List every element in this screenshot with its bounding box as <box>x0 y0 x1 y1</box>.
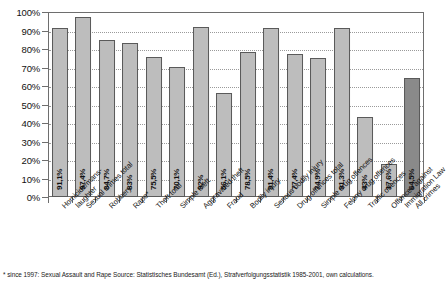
bar-slot: 75,5% <box>142 12 166 197</box>
y-tick-label: 10% <box>22 173 40 184</box>
bar-slot: 64,5% <box>401 12 425 197</box>
bar-slot: 92% <box>189 12 213 197</box>
bar-value-label: 91,1% <box>55 169 64 190</box>
x-axis-labels: Homicide/mans-laughterSexual crimes tota… <box>48 204 430 266</box>
bar-slot: 77,4% <box>283 12 307 197</box>
y-axis: 100%90%80%70%60%50%40%30%20%10%0% <box>0 12 48 197</box>
y-tick-label: 20% <box>22 155 40 166</box>
y-tick-label: 50% <box>22 99 40 110</box>
bar-slot: 70,1% <box>166 12 190 197</box>
bar-slot: 91,1% <box>48 12 72 197</box>
y-tick-label: 0% <box>27 192 40 203</box>
bar-value-label: 75,5% <box>149 169 158 190</box>
bar-slot: 97,4% <box>72 12 96 197</box>
y-tick-label: 80% <box>22 44 40 55</box>
y-tick-label: 100% <box>17 7 41 18</box>
y-tick-label: 40% <box>22 118 40 129</box>
footnote: * since 1997: Sexual Assault and Rape So… <box>3 271 427 278</box>
bar[interactable]: 70,1% <box>169 67 185 197</box>
y-tick-label: 60% <box>22 81 40 92</box>
bar[interactable]: 75,5% <box>146 57 162 197</box>
bar[interactable]: 97,4% <box>75 17 91 197</box>
bar[interactable]: 92% <box>193 27 209 197</box>
y-tick-label: 30% <box>22 136 40 147</box>
y-tick-label: 90% <box>22 25 40 36</box>
bar-slot: 91,4% <box>260 12 284 197</box>
x-tick-mark <box>48 197 49 203</box>
y-tick-label: 70% <box>22 62 40 73</box>
bar[interactable]: 91,4% <box>263 28 279 197</box>
bar[interactable]: 91,1% <box>52 28 68 197</box>
bar-slot: 56,1% <box>213 12 237 197</box>
